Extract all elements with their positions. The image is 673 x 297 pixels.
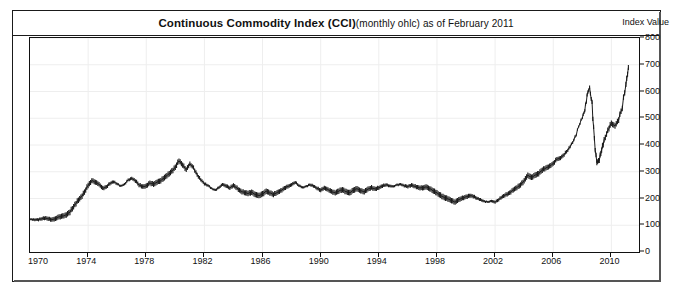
x-axis-tick-mark — [378, 253, 379, 257]
y-axis-tick-mark — [640, 144, 644, 145]
y-axis-tick-mark — [640, 63, 644, 64]
y-axis-title: Index Value — [622, 17, 669, 27]
y-axis-tick-mark — [640, 117, 644, 118]
x-axis-tick-mark — [610, 253, 611, 257]
series-line — [30, 67, 628, 219]
x-axis-tick-mark — [145, 253, 146, 257]
chart-canvas — [30, 38, 639, 252]
y-axis-tick-label: 300 — [645, 166, 660, 176]
y-axis-tick-mark — [640, 197, 644, 198]
chart-title-sub: (monthly ohlc) as of February 2011 — [356, 18, 514, 29]
x-axis-tick-label: 1986 — [251, 256, 271, 266]
y-axis-tick-mark — [640, 251, 644, 252]
y-axis-tick-label: 400 — [645, 139, 660, 149]
x-axis-tick-label: 1990 — [309, 256, 329, 266]
y-axis-tick-label: 700 — [645, 59, 660, 69]
y-axis-tick-label: 600 — [645, 86, 660, 96]
y-axis-tick-mark — [640, 224, 644, 225]
y-axis-tick-label: 500 — [645, 112, 660, 122]
x-axis-tick-mark — [436, 253, 437, 257]
y-axis-tick-mark — [640, 37, 644, 38]
x-axis-tick-mark — [552, 253, 553, 257]
x-axis-tick-mark — [87, 253, 88, 257]
chart-title-bar: Continuous Commodity Index (CCI)(monthly… — [13, 11, 659, 36]
x-axis-tick-mark — [494, 253, 495, 257]
chart-screenshot: Continuous Commodity Index (CCI)(monthly… — [0, 0, 673, 297]
y-axis-tick-label: 800 — [645, 32, 660, 42]
x-axis-tick-label: 1994 — [367, 256, 387, 266]
x-axis-tick-label: 1982 — [192, 256, 212, 266]
x-axis-tick-mark — [320, 253, 321, 257]
page-title: Continuous Commodity Index (CCI)(monthly… — [158, 17, 513, 29]
gridlines — [30, 38, 639, 252]
x-axis-tick-label: 1998 — [425, 256, 445, 266]
x-axis-tick-label: 1974 — [76, 256, 96, 266]
x-axis-tick-label: 2002 — [483, 256, 503, 266]
x-axis-tick-label: 1970 — [28, 256, 48, 266]
y-axis-tick-mark — [640, 90, 644, 91]
plot-area — [29, 37, 640, 253]
y-axis-tick-label: 200 — [645, 193, 660, 203]
x-axis-tick-mark — [203, 253, 204, 257]
y-axis-tick-label: 0 — [645, 246, 650, 256]
x-axis-tick-mark — [262, 253, 263, 257]
y-axis-tick-label: 100 — [645, 219, 660, 229]
y-axis-tick-mark — [640, 170, 644, 171]
x-axis-tick-label: 2006 — [541, 256, 561, 266]
chart-title-main: Continuous Commodity Index (CCI) — [158, 17, 355, 29]
x-axis-tick-label: 1978 — [134, 256, 154, 266]
x-axis-tick-label: 2010 — [599, 256, 619, 266]
